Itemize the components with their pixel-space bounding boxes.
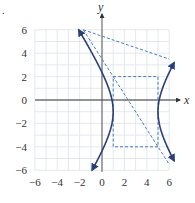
y-tick-label: −2 xyxy=(15,117,27,129)
y-tick-label: 0 xyxy=(22,94,28,106)
x-tick-label: 2 xyxy=(122,176,128,188)
y-tick-label: 2 xyxy=(22,71,28,83)
x-tick-label: −2 xyxy=(74,176,86,188)
asymptote-1 xyxy=(83,30,169,59)
y-tick-label: −4 xyxy=(15,141,27,153)
x-tick-label: 6 xyxy=(166,176,172,188)
asymptote-2 xyxy=(83,30,169,165)
y-tick-labels: −6−4−20246 xyxy=(15,24,27,176)
y-tick-label: 6 xyxy=(22,24,28,36)
y-axis-label: y xyxy=(97,0,104,14)
x-tick-label: −6 xyxy=(29,176,41,188)
x-tick-label: 4 xyxy=(144,176,150,188)
x-tick-label: −4 xyxy=(51,176,63,188)
hyperbola-plot: x y −6−4−20246 −6−4−20246 xyxy=(0,0,195,203)
y-tick-label: −6 xyxy=(15,164,27,176)
x-axis-label: x xyxy=(183,93,190,107)
x-tick-label: 0 xyxy=(99,176,105,188)
y-tick-label: 4 xyxy=(22,47,28,59)
x-tick-labels: −6−4−20246 xyxy=(29,176,173,188)
asymptotes-and-box xyxy=(83,30,169,165)
